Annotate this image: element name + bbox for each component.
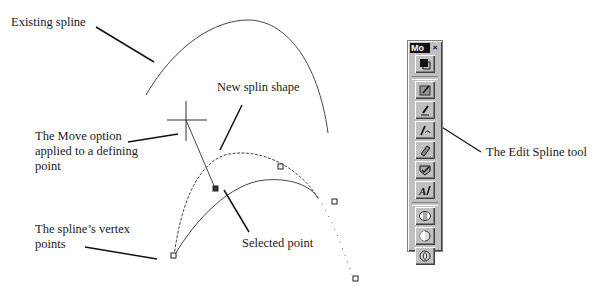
label-selected-point: Selected point <box>242 236 313 251</box>
eraser-icon <box>418 143 432 157</box>
vertex-point[interactable] <box>332 199 337 204</box>
pen-icon <box>418 103 432 117</box>
select-icon <box>418 57 432 71</box>
toolbar-separator <box>412 202 438 206</box>
subtract-tool-button[interactable] <box>415 227 435 245</box>
text-icon: A <box>418 183 432 197</box>
select-tool-button[interactable] <box>415 55 435 73</box>
union-tool-button[interactable] <box>415 207 435 225</box>
vertex-point[interactable] <box>171 253 176 258</box>
leader-selected-point <box>224 190 249 232</box>
toolbar-separator <box>412 76 438 80</box>
label-move-option: The Move option applied to a defining po… <box>35 129 138 174</box>
svg-text:A: A <box>418 185 426 197</box>
toolbar-title-bar[interactable]: Mo × <box>410 43 440 53</box>
intersect-tool-button[interactable] <box>415 247 435 265</box>
intersect-icon <box>418 249 432 263</box>
reshape-icon <box>418 83 432 97</box>
label-edit-spline-tool: The Edit Spline tool <box>486 145 587 160</box>
label-move-option-line3: point <box>35 159 138 174</box>
reshape-tool-button[interactable] <box>415 81 435 99</box>
leader-edit-spline-tool <box>437 124 481 152</box>
close-icon[interactable]: × <box>430 43 440 53</box>
check-icon <box>418 163 432 177</box>
label-move-option-line1: The Move option <box>35 129 138 144</box>
pen-tool-button[interactable] <box>415 101 435 119</box>
label-existing-spline: Existing spline <box>11 15 86 30</box>
label-move-option-line2: applied to a defining <box>35 144 138 159</box>
check-tool-button[interactable] <box>415 161 435 179</box>
vertex-point[interactable] <box>353 276 358 281</box>
text-tool-button[interactable]: A <box>415 181 435 199</box>
edit-spline-icon <box>418 123 432 137</box>
move-drag-line <box>186 120 215 188</box>
label-vertex-points-line1: The spline’s vertex <box>35 222 130 237</box>
modify-toolbar[interactable]: Mo × <box>407 40 443 252</box>
label-new-spline-shape: New splin shape <box>217 80 300 95</box>
subtract-icon <box>418 229 432 243</box>
label-vertex-points: The spline’s vertex points <box>35 222 130 252</box>
union-icon <box>418 209 432 223</box>
edit-spline-tool-button[interactable] <box>415 121 435 139</box>
spline-tail-dotted <box>318 198 352 275</box>
selected-vertex-point[interactable] <box>213 186 218 191</box>
leader-existing-spline <box>96 27 154 62</box>
eraser-tool-button[interactable] <box>415 141 435 159</box>
toolbar-title: Mo <box>411 43 424 53</box>
vertex-point[interactable] <box>278 164 283 169</box>
leader-new-spline <box>220 105 242 150</box>
label-vertex-points-line2: points <box>35 237 130 252</box>
